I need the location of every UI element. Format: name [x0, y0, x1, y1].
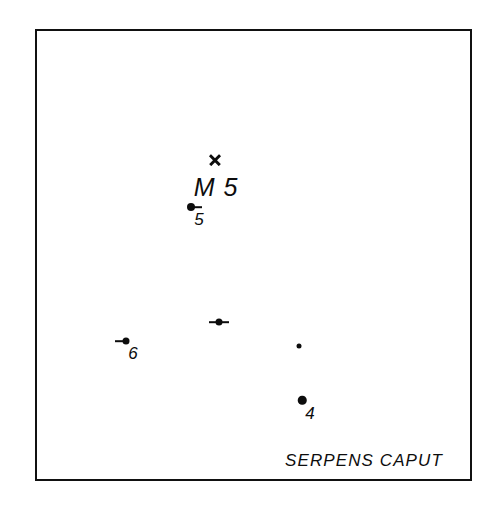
star-tick-left — [115, 340, 126, 342]
star-marker — [298, 396, 307, 405]
star-tick-right — [219, 321, 229, 323]
star-tick-right — [191, 206, 202, 208]
star-label: 6 — [128, 345, 137, 362]
cluster-cross-icon — [207, 152, 223, 168]
star-chart-figure: M 5 564 SERPENS CAPUT — [0, 0, 499, 507]
star-label: 4 — [305, 405, 314, 422]
star-label: 5 — [194, 211, 203, 228]
chart-frame-border — [35, 29, 472, 481]
cluster-label: M 5 — [194, 175, 239, 200]
star-marker — [297, 344, 302, 349]
constellation-caption: SERPENS CAPUT — [285, 452, 443, 469]
star-tick-left — [209, 321, 219, 323]
